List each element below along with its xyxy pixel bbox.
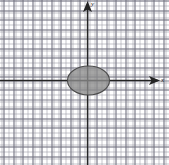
axes-and-plot — [0, 0, 169, 165]
x-axis-label: x — [161, 77, 164, 84]
shaded-ellipse — [68, 66, 110, 95]
coordinate-plane-figure: x y — [0, 0, 169, 165]
y-axis-label: y — [91, 1, 94, 8]
